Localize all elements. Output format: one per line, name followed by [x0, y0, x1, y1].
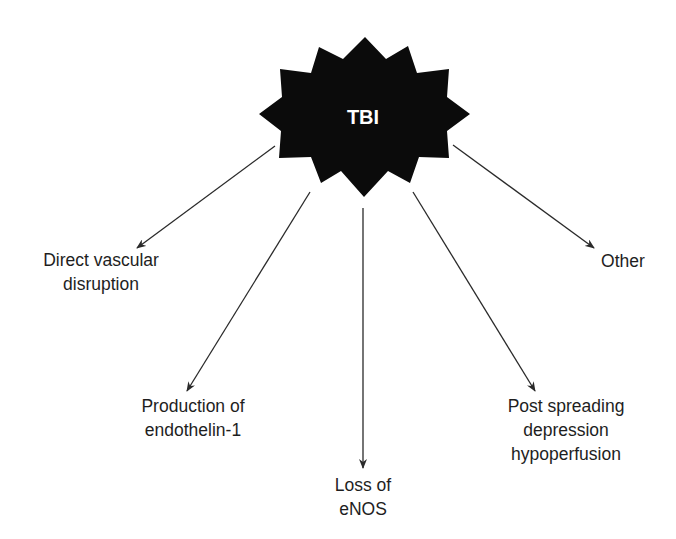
node-label-line: Direct vascular — [30, 248, 172, 272]
tbi-starburst: TBI — [259, 37, 470, 197]
arrow-to-direct-vascular-disruption — [137, 146, 275, 248]
node-label-line: Loss of — [322, 473, 404, 497]
node-label-line: Production of — [128, 394, 258, 418]
node-post-spreading-depression-hypoperfusion: Post spreading depression hypoperfusion — [492, 394, 640, 466]
node-label-line: Post spreading — [492, 394, 640, 418]
center-label-tbi: TBI — [347, 106, 379, 128]
node-other: Other — [592, 249, 654, 273]
node-loss-of-enos: Loss of eNOS — [322, 473, 404, 521]
node-label-line: endothelin-1 — [128, 418, 258, 442]
arrow-to-post-spreading-depression — [413, 192, 535, 391]
node-production-of-endothelin-1: Production of endothelin-1 — [128, 394, 258, 442]
node-label-line: Other — [592, 249, 654, 273]
node-label-line: hypoperfusion — [492, 442, 640, 466]
node-label-line: disruption — [30, 272, 172, 296]
node-direct-vascular-disruption: Direct vascular disruption — [30, 248, 172, 296]
node-label-line: depression — [492, 418, 640, 442]
arrow-to-other — [453, 145, 594, 248]
arrow-to-production-of-endothelin-1 — [187, 192, 310, 391]
node-label-line: eNOS — [322, 497, 404, 521]
